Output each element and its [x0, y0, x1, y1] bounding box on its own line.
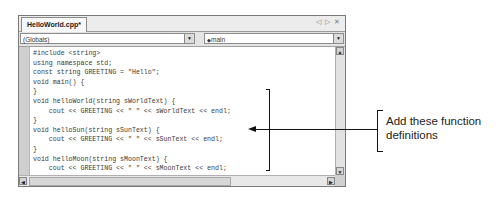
code-line: void helloSun(string sSunText) {	[33, 126, 231, 136]
horizontal-scrollbar[interactable]: ◀ ▶	[19, 175, 335, 186]
code-line: }	[33, 116, 231, 126]
chevron-down-icon[interactable]: ▼	[333, 34, 343, 43]
navigation-bar: (Globals) ▼ ◆main ▼	[19, 32, 345, 47]
callout-line	[256, 129, 377, 130]
arrow-left-icon	[248, 126, 256, 132]
member-dropdown[interactable]: ◆main ▼	[204, 33, 344, 44]
code-line: #include <string>	[33, 49, 231, 59]
code-line: void main() {	[33, 78, 231, 88]
code-line: using namespace std;	[33, 59, 231, 69]
scope-dropdown[interactable]: (Globals) ▼	[20, 33, 195, 44]
chevron-down-icon[interactable]: ▼	[184, 34, 194, 43]
callout-label: Add these function definitions	[386, 114, 496, 142]
scroll-left-icon[interactable]: ◀	[19, 177, 27, 185]
member-value: main	[211, 36, 225, 43]
code-line: cout << GREETING << " " << sSunText << e…	[33, 135, 231, 145]
code-editor[interactable]: #include <string>using namespace std;con…	[19, 47, 335, 175]
tab-controls[interactable]: ◁ ▷ ✕	[316, 18, 341, 26]
code-line: const string GREETING = "Hello";	[33, 68, 231, 78]
tab-bar: HelloWorld.cpp* ◁ ▷ ✕	[19, 16, 345, 32]
scope-value: (Globals)	[23, 36, 49, 43]
scrollbar-corner	[335, 175, 345, 186]
tab-helloworld-cpp[interactable]: HelloWorld.cpp*	[21, 17, 87, 32]
editor-window: HelloWorld.cpp* ◁ ▷ ✕ (Globals) ▼ ◆main …	[18, 15, 346, 187]
code-line: void helloMoon(string sMoonText) {	[33, 155, 231, 165]
code-line: void helloWorld(string sWorldText) {	[33, 97, 231, 107]
code-line: }	[33, 145, 231, 155]
editor-gutter	[19, 47, 30, 175]
label-bracket	[377, 110, 383, 152]
scroll-right-icon[interactable]: ▶	[327, 177, 335, 185]
horizontal-scroll-thumb[interactable]	[29, 177, 231, 186]
vertical-scrollbar[interactable]: ▲ ▼	[335, 47, 345, 175]
scroll-down-icon[interactable]: ▼	[336, 167, 344, 175]
scroll-up-icon[interactable]: ▲	[336, 47, 344, 55]
code-line: cout << GREETING << " " << sWorldText <<…	[33, 107, 231, 117]
code-text[interactable]: #include <string>using namespace std;con…	[33, 49, 231, 183]
code-line: }	[33, 87, 231, 97]
code-line: cout << GREETING << " " << sMoonText << …	[33, 164, 231, 174]
